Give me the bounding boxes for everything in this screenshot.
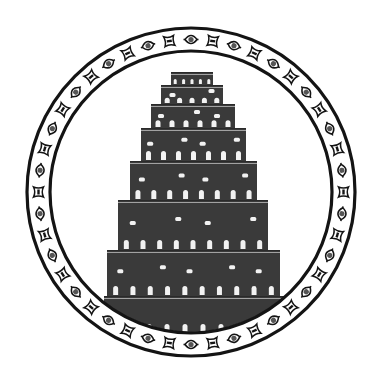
window-icon bbox=[158, 114, 164, 118]
ornament-spool-icon bbox=[248, 47, 261, 60]
window-icon bbox=[156, 120, 161, 127]
tower-tier bbox=[141, 128, 246, 161]
window-icon bbox=[202, 98, 207, 103]
window-icon bbox=[165, 98, 170, 103]
window-icon bbox=[252, 286, 257, 295]
window-icon bbox=[234, 138, 240, 142]
ornament-spool-icon bbox=[84, 300, 98, 314]
window-icon bbox=[236, 151, 241, 160]
window-icon bbox=[207, 79, 210, 84]
window-icon bbox=[182, 286, 187, 295]
window-icon bbox=[147, 142, 153, 146]
ornament-eye-icon bbox=[337, 206, 347, 222]
window-icon bbox=[207, 240, 212, 249]
window-icon bbox=[167, 190, 172, 199]
window-icon bbox=[184, 120, 189, 127]
window-icon bbox=[212, 120, 217, 127]
window-icon bbox=[170, 93, 176, 97]
ornament-spool-icon bbox=[312, 268, 326, 282]
tower-tier bbox=[161, 85, 223, 104]
ornament-spool-icon bbox=[312, 103, 326, 117]
window-icon bbox=[191, 240, 196, 249]
ornament-eye-icon bbox=[298, 284, 314, 301]
ornament-spool-icon bbox=[121, 324, 134, 337]
ornament-spool-icon bbox=[331, 143, 343, 155]
ornament-eye-icon bbox=[35, 162, 45, 178]
window-icon bbox=[151, 190, 156, 199]
window-icon bbox=[198, 120, 203, 127]
window-icon bbox=[217, 286, 222, 295]
ornament-spool-icon bbox=[38, 143, 50, 155]
ornament-eye-icon bbox=[46, 120, 60, 137]
emblem-image bbox=[0, 0, 383, 386]
window-icon bbox=[181, 138, 187, 142]
window-icon bbox=[191, 79, 194, 84]
ornament-spool-icon bbox=[284, 300, 298, 314]
window-icon bbox=[215, 190, 220, 199]
window-icon bbox=[113, 286, 118, 295]
window-icon bbox=[234, 286, 239, 295]
ornament-eye-icon bbox=[298, 84, 314, 101]
ornament-spool-icon bbox=[34, 187, 44, 197]
window-icon bbox=[130, 221, 136, 225]
ornament-eye-icon bbox=[184, 36, 199, 44]
window-icon bbox=[176, 151, 181, 160]
tower-tier bbox=[130, 161, 257, 200]
window-icon bbox=[124, 240, 129, 249]
window-icon bbox=[170, 120, 175, 127]
ornament-spool-icon bbox=[38, 229, 50, 241]
window-icon bbox=[269, 286, 274, 295]
ornament-spool-icon bbox=[284, 70, 298, 84]
ornament-spool-icon bbox=[339, 187, 349, 197]
ornament-spool-icon bbox=[56, 103, 70, 117]
window-icon bbox=[200, 142, 206, 146]
window-icon bbox=[183, 190, 188, 199]
window-icon bbox=[174, 79, 177, 84]
window-icon bbox=[205, 221, 211, 225]
ornament-eye-icon bbox=[35, 206, 45, 222]
window-icon bbox=[187, 269, 193, 273]
window-icon bbox=[224, 240, 229, 249]
window-icon bbox=[130, 286, 135, 295]
window-icon bbox=[174, 240, 179, 249]
window-icon bbox=[202, 177, 208, 181]
window-icon bbox=[148, 286, 153, 295]
window-icon bbox=[191, 151, 196, 160]
window-icon bbox=[226, 120, 231, 127]
ornament-spool-icon bbox=[207, 337, 218, 348]
window-icon bbox=[190, 98, 195, 103]
window-icon bbox=[165, 286, 170, 295]
ornament-spool-icon bbox=[248, 324, 261, 337]
window-icon bbox=[229, 265, 235, 269]
ornament-eye-icon bbox=[265, 56, 282, 71]
tower-tier bbox=[151, 104, 235, 128]
window-icon bbox=[135, 190, 140, 199]
ornament-eye-icon bbox=[226, 40, 243, 52]
ornament-eye-icon bbox=[68, 84, 84, 101]
tower-of-babel-emblem bbox=[0, 0, 383, 386]
window-icon bbox=[111, 324, 116, 333]
ornament-spool-icon bbox=[121, 47, 134, 60]
ornament-eye-icon bbox=[323, 120, 337, 137]
window-icon bbox=[242, 173, 248, 177]
ornament-spool-icon bbox=[84, 70, 98, 84]
window-icon bbox=[209, 89, 215, 93]
window-icon bbox=[141, 240, 146, 249]
ornament-eye-icon bbox=[265, 313, 282, 328]
window-icon bbox=[200, 286, 205, 295]
ornament-eye-icon bbox=[323, 247, 337, 264]
window-icon bbox=[241, 240, 246, 249]
window-icon bbox=[160, 265, 166, 269]
window-icon bbox=[161, 151, 166, 160]
window-icon bbox=[177, 98, 182, 103]
ornament-eye-icon bbox=[184, 341, 199, 349]
ornament-eye-icon bbox=[140, 40, 157, 52]
ornament-eye-icon bbox=[100, 313, 117, 328]
window-icon bbox=[231, 190, 236, 199]
ornament-eye-icon bbox=[337, 162, 347, 178]
ornament-eye-icon bbox=[100, 56, 117, 71]
window-icon bbox=[250, 217, 256, 221]
window-icon bbox=[182, 79, 185, 84]
ornament-spool-icon bbox=[164, 337, 175, 348]
window-icon bbox=[214, 114, 220, 118]
